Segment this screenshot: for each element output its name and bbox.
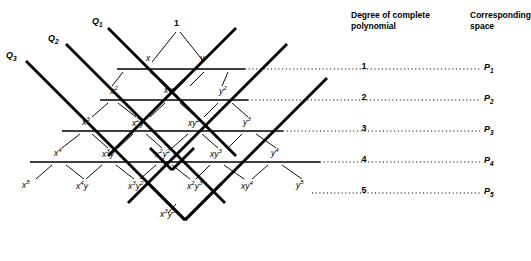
degree-value-4: 4 bbox=[359, 154, 369, 164]
term-x3y3: x3y3 bbox=[160, 207, 175, 219]
space-label-p3: P3 bbox=[484, 124, 494, 136]
term-xy4-base: xy bbox=[241, 181, 250, 191]
apex-term-1: 1 bbox=[174, 18, 179, 28]
polynomial-pascal-triangle-figure: Q1 Q2 Q3 1 Degree of complete polynomial… bbox=[0, 0, 531, 261]
term-x3y3-exp2: 3 bbox=[172, 207, 175, 214]
term-x2y-y: y bbox=[140, 118, 144, 128]
diagram-svg bbox=[0, 0, 531, 261]
stem-r1-b bbox=[150, 72, 166, 86]
header-corresponding-space: Corresponding space bbox=[470, 10, 531, 31]
term-x3: x3 bbox=[82, 115, 90, 127]
term-x5-exp: 5 bbox=[26, 178, 29, 185]
term-xy3-base: xy bbox=[210, 149, 219, 159]
q-label-2-sub: 2 bbox=[55, 38, 59, 45]
q1-v-bottom-right bbox=[172, 80, 184, 92]
term-x2y: x2y bbox=[132, 116, 144, 128]
q-label-1-sub: 1 bbox=[99, 21, 103, 28]
term-xy: xy bbox=[164, 85, 173, 95]
space-label-p5-sub: 5 bbox=[490, 191, 494, 198]
q2-v-bottom-right bbox=[172, 148, 194, 170]
term-x4y-y: y bbox=[84, 181, 88, 191]
q-label-1: Q1 bbox=[92, 16, 103, 28]
term-y-base: y bbox=[200, 53, 204, 63]
space-label-p1-sub: 1 bbox=[490, 67, 494, 74]
term-xy3: xy3 bbox=[210, 147, 222, 159]
q2-right-diagonal bbox=[128, 44, 287, 203]
term-x2y3: x2y3 bbox=[187, 179, 202, 191]
stem-r4-b bbox=[66, 165, 84, 179]
term-xy4: xy4 bbox=[241, 179, 253, 191]
term-y3-exp: 3 bbox=[247, 115, 250, 122]
degree-value-1: 1 bbox=[359, 61, 369, 71]
stem-apex-to-x bbox=[152, 32, 176, 62]
term-x3y-y: y bbox=[110, 149, 114, 159]
stem-r1-c bbox=[190, 72, 204, 86]
term-y5-exp: 5 bbox=[300, 178, 303, 185]
stem-r3-a bbox=[62, 134, 80, 148]
space-label-p4-sub: 4 bbox=[490, 160, 494, 167]
term-y4-exp: 4 bbox=[275, 146, 278, 153]
q-label-3-sub: 3 bbox=[13, 55, 17, 62]
degree-value-2: 2 bbox=[359, 92, 369, 102]
term-y2-exp: 2 bbox=[223, 84, 226, 91]
term-x: x bbox=[146, 53, 150, 63]
term-x2y3-exp2: 3 bbox=[199, 179, 202, 186]
term-x2-exp: 2 bbox=[114, 84, 117, 91]
term-x2y2: x2y2 bbox=[155, 147, 170, 159]
stem-r4-g bbox=[196, 165, 210, 179]
term-y: y bbox=[200, 53, 204, 63]
stem-r4-j bbox=[282, 165, 302, 179]
term-x3y2: x3y2 bbox=[128, 179, 143, 191]
degree-value-3: 3 bbox=[359, 123, 369, 133]
stem-r3-c bbox=[118, 134, 133, 148]
space-label-p2-sub: 2 bbox=[490, 98, 494, 105]
stem-r4-c bbox=[86, 165, 102, 179]
q-label-3-text: Q bbox=[6, 50, 13, 60]
term-x5: x5 bbox=[22, 178, 30, 190]
space-label-p5: P5 bbox=[484, 186, 494, 198]
term-x2: x2 bbox=[110, 84, 118, 96]
term-y3: y3 bbox=[243, 115, 251, 127]
term-y5: y5 bbox=[296, 178, 304, 190]
space-label-p3-sub: 3 bbox=[490, 129, 494, 136]
term-x3y: x3y bbox=[102, 147, 114, 159]
term-x4-exp: 4 bbox=[58, 146, 61, 153]
term-y2: y2 bbox=[219, 84, 227, 96]
q-label-2-text: Q bbox=[48, 33, 55, 43]
term-xy2-base: xy bbox=[188, 118, 197, 128]
term-xy4-exp: 4 bbox=[250, 179, 253, 186]
term-x2y2-exp2: 2 bbox=[167, 147, 170, 154]
q-label-3: Q3 bbox=[6, 50, 17, 62]
space-label-p1: P1 bbox=[484, 62, 494, 74]
q-label-1-text: Q bbox=[92, 16, 99, 26]
degree-value-5: 5 bbox=[359, 185, 369, 195]
q-label-2: Q2 bbox=[48, 33, 59, 45]
term-x4y: x4y bbox=[76, 179, 88, 191]
term-xy2-exp: 2 bbox=[197, 116, 200, 123]
term-xy3-exp: 3 bbox=[219, 147, 222, 154]
stem-r2-d bbox=[180, 103, 196, 117]
term-x4: x4 bbox=[54, 146, 62, 158]
space-label-p2: P2 bbox=[484, 93, 494, 105]
stem-r2-a bbox=[92, 103, 108, 117]
stem-r4-a bbox=[36, 165, 52, 179]
term-x-base: x bbox=[146, 53, 150, 63]
term-y4: y4 bbox=[271, 146, 279, 158]
stem-r3-g bbox=[228, 134, 242, 148]
term-xy2: xy2 bbox=[188, 116, 200, 128]
stem-r4-i bbox=[252, 165, 268, 179]
term-x3y2-exp2: 2 bbox=[140, 179, 143, 186]
term-x3-exp: 3 bbox=[86, 115, 89, 122]
header-degree-of-complete-polynomial: Degree of complete polynomial bbox=[351, 10, 461, 31]
term-xy-base: xy bbox=[164, 85, 173, 95]
space-label-p4: P4 bbox=[484, 155, 494, 167]
